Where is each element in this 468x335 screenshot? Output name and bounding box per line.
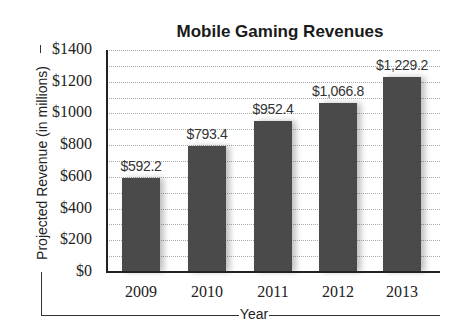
x-axis-label: Year bbox=[236, 306, 272, 322]
y-tick-label: $600 bbox=[12, 167, 92, 185]
y-tick-label: $400 bbox=[12, 199, 92, 217]
bar-value-label: $592.2 bbox=[101, 158, 181, 174]
chart-title: Mobile Gaming Revenues bbox=[120, 22, 440, 42]
x-tick-label: 2009 bbox=[111, 283, 171, 301]
bar-2011 bbox=[254, 121, 292, 272]
y-tick-label: $1000 bbox=[12, 103, 92, 121]
bar-2009 bbox=[122, 178, 160, 272]
y-tick-label: $200 bbox=[12, 230, 92, 248]
bar-2010 bbox=[188, 146, 226, 272]
x-tick-label: 2013 bbox=[372, 283, 432, 301]
x-tick-label: 2012 bbox=[308, 283, 368, 301]
plot-area: $592.2$793.4$952.4$1,066.8$1,229.2 bbox=[106, 50, 440, 272]
bar-2012 bbox=[319, 103, 357, 272]
bar-value-label: $793.4 bbox=[167, 126, 247, 142]
bar-value-label: $1,229.2 bbox=[362, 57, 442, 73]
x-tick-label: 2010 bbox=[177, 283, 237, 301]
x-tick-label: 2011 bbox=[243, 283, 303, 301]
bar-2013 bbox=[383, 77, 421, 272]
gridline bbox=[109, 50, 440, 51]
y-tick-label: $0 bbox=[12, 262, 92, 280]
bar-value-label: $952.4 bbox=[233, 101, 313, 117]
bar-value-label: $1,066.8 bbox=[298, 83, 378, 99]
x-label-bracket-right bbox=[269, 315, 440, 316]
x-axis-line bbox=[106, 271, 440, 273]
y-tick-label: $800 bbox=[12, 135, 92, 153]
y-tick-label: $1200 bbox=[12, 72, 92, 90]
y-tick-label: $1400 bbox=[12, 40, 92, 58]
x-label-bracket-left bbox=[41, 315, 239, 316]
y-axis-line bbox=[106, 50, 108, 273]
